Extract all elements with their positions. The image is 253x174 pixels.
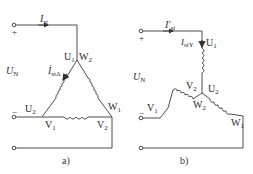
- minus-sign-a: −: [12, 108, 17, 117]
- voltage-label-a: UN: [6, 66, 18, 78]
- phase-current-label-a: İstΔ: [48, 66, 61, 78]
- plus-sign-a: +: [12, 28, 17, 37]
- plus-sign-b: +: [139, 34, 144, 43]
- node-label-u2-b: U2: [208, 84, 219, 96]
- node-label-w1-a: W1: [108, 102, 121, 114]
- phase-current-label-b: IstY: [181, 38, 194, 49]
- node-label-u1-a: U1: [64, 52, 75, 64]
- node-label-v1-b: V1: [147, 103, 158, 115]
- voltage-label-b: UN: [133, 72, 145, 84]
- minus-sign-b: −: [139, 109, 144, 118]
- current-label-a: Ist: [40, 14, 48, 26]
- node-label-w1-b: W1: [231, 118, 244, 130]
- node-label-w2-b: W2: [193, 100, 206, 112]
- coil-u-b: [202, 48, 204, 93]
- node-label-u1-b: U1: [206, 38, 217, 50]
- coil-w-a: [77, 60, 112, 117]
- node-label-v1-a: V1: [45, 120, 56, 132]
- current-label-b: I′st: [165, 20, 175, 32]
- caption-a: a): [62, 155, 70, 166]
- node-label-w2-a: W2: [79, 52, 92, 64]
- terminal-bottom-b: [139, 146, 143, 150]
- node-label-u2-a: U2: [25, 104, 36, 116]
- node-label-v2-b: V2: [186, 81, 197, 93]
- terminal-bottom-a: [12, 146, 16, 150]
- node-label-v2-a: V2: [97, 120, 108, 132]
- caption-b: b): [180, 155, 188, 166]
